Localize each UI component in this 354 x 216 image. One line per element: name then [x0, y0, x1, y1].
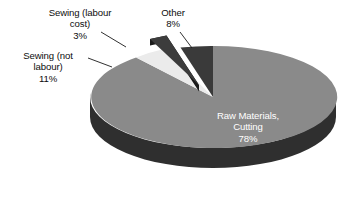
slice-label-other: Other 8% — [140, 7, 206, 30]
slice-label-sewing-labour-cost: Sewing (labour cost) 3% — [27, 7, 133, 41]
slice-label-raw-materials-cutting: Raw Materials, Cutting 78% — [196, 110, 300, 144]
slice-label-sewing-not-labour: Sewing (not labour) 11% — [2, 50, 94, 84]
leader-line-other — [180, 32, 192, 48]
pie-chart-figure: Sewing (labour cost) 3% Sewing (not labo… — [0, 0, 354, 216]
